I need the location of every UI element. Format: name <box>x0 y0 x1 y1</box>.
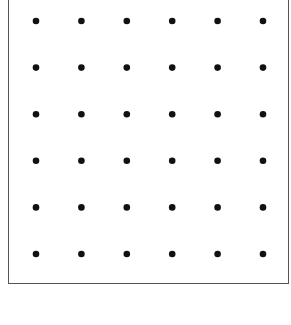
grid-dot <box>260 251 267 258</box>
grid-dot <box>260 158 267 165</box>
grid-dot <box>78 111 85 118</box>
grid-dot <box>260 204 267 211</box>
grid-dot <box>169 251 176 258</box>
grid-dot <box>214 18 221 25</box>
grid-dot <box>124 158 131 165</box>
grid-dot <box>33 64 40 71</box>
grid-dot <box>169 204 176 211</box>
grid-dot <box>214 64 221 71</box>
grid-dot <box>214 204 221 211</box>
grid-dot <box>260 18 267 25</box>
grid-dot <box>260 111 267 118</box>
grid-dot <box>214 251 221 258</box>
grid-dot <box>33 111 40 118</box>
grid-dot <box>78 158 85 165</box>
grid-dot <box>78 204 85 211</box>
grid-dot <box>169 64 176 71</box>
grid-dot <box>124 251 131 258</box>
grid-dot <box>169 111 176 118</box>
grid-dot <box>33 204 40 211</box>
grid-dot <box>124 111 131 118</box>
grid-dot <box>78 64 85 71</box>
grid-dot <box>169 18 176 25</box>
grid-dot <box>33 251 40 258</box>
grid-dot <box>214 111 221 118</box>
grid-dot <box>169 158 176 165</box>
grid-dot <box>214 158 221 165</box>
grid-dot <box>33 158 40 165</box>
grid-dot <box>124 18 131 25</box>
grid-dot <box>124 204 131 211</box>
grid-dot <box>78 251 85 258</box>
grid-dot <box>124 64 131 71</box>
grid-dot <box>33 18 40 25</box>
grid-dot <box>260 64 267 71</box>
dot-grid <box>0 0 291 325</box>
grid-dot <box>78 18 85 25</box>
